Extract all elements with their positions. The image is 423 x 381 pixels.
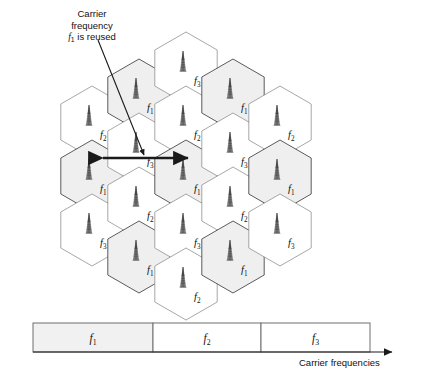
hex-cell-frequency-subscript: 1	[150, 108, 154, 116]
hex-cell-frequency-subscript: 1	[103, 189, 107, 197]
spectrum-segment-f3[interactable]: f3	[261, 323, 370, 352]
spectrum-segment-f2[interactable]: f2	[153, 323, 261, 352]
hex-cell-frequency-subscript: 1	[291, 189, 295, 197]
spectrum-segment-f1[interactable]: f1	[33, 323, 153, 352]
hex-cell-frequency-subscript: 2	[291, 135, 295, 143]
hex-cell-frequency-subscript: 3	[197, 81, 201, 89]
hex-cell-frequency-subscript: 2	[197, 135, 201, 143]
figure-canvas: f2f1f3f1f3f2f1f3f2f1f3f2f1f3f2f1f2f1f3 f…	[0, 0, 423, 381]
reuse-annotation-text: Carrier frequency f1 is reused	[56, 8, 128, 45]
spectrum-segment-subscript: 2	[207, 338, 211, 347]
hex-cell-frequency-subscript: 3	[291, 243, 295, 251]
annotation-line-3: f1 is reused	[56, 31, 128, 45]
annotation-freq-suffix: is reused	[75, 31, 116, 42]
hex-cell-frequency-subscript: 2	[150, 216, 154, 224]
hex-cell-frequency-subscript: 1	[150, 270, 154, 278]
hex-cell-frequency-subscript: 3	[150, 162, 154, 170]
hexagon-grid: f2f1f3f1f3f2f1f3f2f1f3f2f1f3f2f1f2f1f3	[61, 32, 311, 320]
hex-cell-frequency-subscript: 1	[244, 270, 248, 278]
hex-cell-frequency-subscript: 3	[197, 243, 201, 251]
hex-cell-frequency-subscript: 1	[197, 189, 201, 197]
hex-cell-frequency-subscript: 2	[244, 216, 248, 224]
carrier-frequencies-label: Carrier frequencies	[299, 357, 380, 369]
spectrum-segment-subscript: 3	[315, 338, 319, 347]
hex-cell-frequency-subscript: 2	[197, 297, 201, 305]
carrier-frequency-bar: f1f2f3	[33, 323, 370, 352]
cellular-reuse-diagram: f2f1f3f1f3f2f1f3f2f1f3f2f1f3f2f1f2f1f3 f…	[0, 0, 423, 381]
spectrum-segment-subscript: 1	[93, 338, 97, 347]
annotation-line-2: frequency	[56, 20, 128, 32]
hex-cell-frequency-subscript: 1	[244, 108, 248, 116]
hex-cell-frequency-subscript: 3	[103, 243, 107, 251]
annotation-line-1: Carrier	[56, 8, 128, 20]
hex-cell-frequency-subscript: 3	[244, 162, 248, 170]
hex-cell-frequency-subscript: 2	[103, 135, 107, 143]
